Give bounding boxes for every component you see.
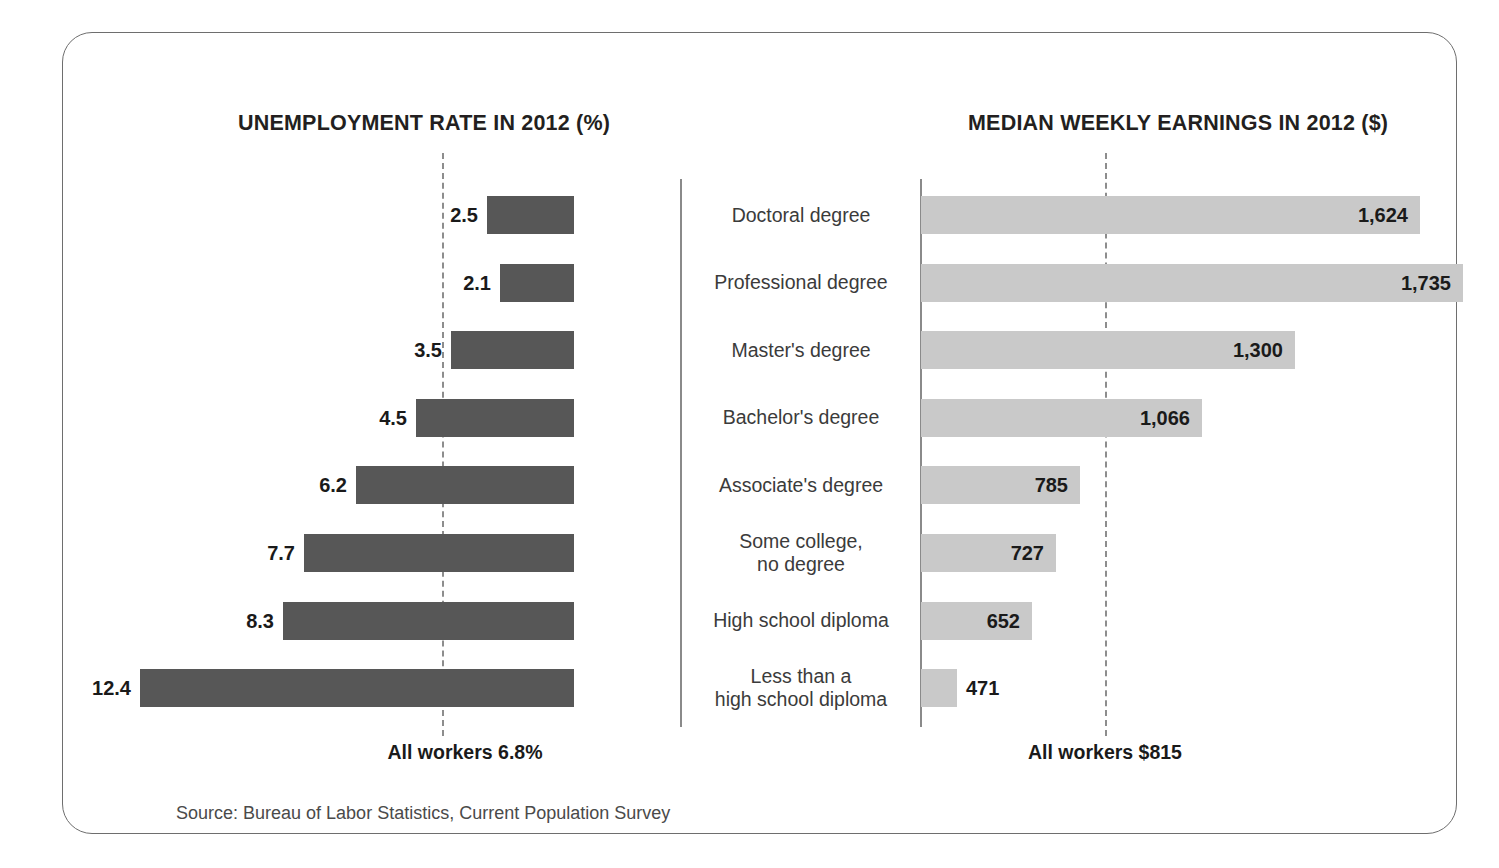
category-label-line: high school diploma [715,688,887,711]
category-label: Some college,no degree [693,534,909,572]
chart-row: 3.5Master's degree1,300 [63,331,1456,369]
chart-plot-area: UNEMPLOYMENT RATE IN 2012 (%) MEDIAN WEE… [63,33,1456,833]
category-label: Less than ahigh school diploma [693,669,909,707]
earnings-value-label: 471 [966,669,999,707]
category-label: Master's degree [693,331,909,369]
category-label-line: Associate's degree [719,474,883,497]
category-label: Bachelor's degree [693,399,909,437]
earnings-bar [921,196,1420,234]
unemployment-value-label: 2.5 [450,196,478,234]
category-label-line: no degree [739,553,863,576]
category-label-line: Doctoral degree [732,204,871,227]
earnings-value-label: 1,300 [1225,331,1283,369]
unemployment-bar [451,331,574,369]
category-label-line: Professional degree [714,271,887,294]
category-label-line: Master's degree [731,339,870,362]
right-reference-line [1105,153,1107,736]
chart-row: 6.2Associate's degree785 [63,466,1456,504]
category-label-line: Some college, [739,530,863,553]
category-label: High school diploma [693,602,909,640]
unemployment-value-label: 2.1 [463,264,491,302]
unemployment-value-label: 3.5 [414,331,442,369]
unemployment-bar [416,399,574,437]
unemployment-bar [487,196,574,234]
earnings-value-label: 727 [986,534,1044,572]
left-reference-label: All workers 6.8% [388,741,543,764]
earnings-bar [921,669,957,707]
unemployment-bar [140,669,574,707]
right-axis-spine [920,179,922,727]
earnings-value-label: 785 [1010,466,1068,504]
category-label-line: Less than a [715,665,887,688]
chart-row: 2.5Doctoral degree1,624 [63,196,1456,234]
chart-row: 4.5Bachelor's degree1,066 [63,399,1456,437]
earnings-value-label: 1,624 [1350,196,1408,234]
unemployment-bar [500,264,574,302]
chart-row: 2.1Professional degree1,735 [63,264,1456,302]
chart-row: 7.7Some college,no degree727 [63,534,1456,572]
unemployment-bar [356,466,574,504]
category-label-line: Bachelor's degree [723,406,880,429]
category-label-line: High school diploma [713,609,889,632]
left-reference-line [442,153,444,736]
unemployment-value-label: 6.2 [319,466,347,504]
category-label: Associate's degree [693,466,909,504]
earnings-bar [921,264,1463,302]
figure-frame: UNEMPLOYMENT RATE IN 2012 (%) MEDIAN WEE… [62,32,1457,834]
category-label: Doctoral degree [693,196,909,234]
unemployment-value-label: 4.5 [379,399,407,437]
unemployment-value-label: 7.7 [267,534,295,572]
unemployment-value-label: 8.3 [246,602,274,640]
right-panel-title: MEDIAN WEEKLY EARNINGS IN 2012 ($) [968,111,1388,136]
chart-row: 12.4Less than ahigh school diploma471 [63,669,1456,707]
left-axis-spine [680,179,682,727]
unemployment-bar [304,534,574,572]
right-reference-label: All workers $815 [1028,741,1182,764]
left-panel-title: UNEMPLOYMENT RATE IN 2012 (%) [238,111,610,136]
earnings-value-label: 1,066 [1132,399,1190,437]
category-label: Professional degree [693,264,909,302]
earnings-value-label: 652 [962,602,1020,640]
earnings-value-label: 1,735 [1393,264,1451,302]
chart-row: 8.3High school diploma652 [63,602,1456,640]
source-note: Source: Bureau of Labor Statistics, Curr… [176,803,670,824]
unemployment-bar [283,602,574,640]
unemployment-value-label: 12.4 [92,669,131,707]
